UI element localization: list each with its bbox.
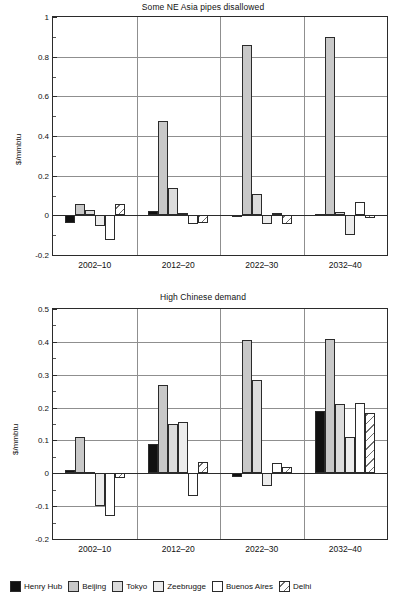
bar-henry-hub-2022-30 — [232, 473, 242, 476]
y-axis-tick-label: 0.4 — [38, 337, 49, 346]
plot-area-bottom: -0.2-0.100.10.20.30.40.52002–102012–2020… — [52, 308, 388, 540]
y-axis-minor-tick — [53, 358, 56, 359]
chart-title-top: Some NE Asia pipes disallowed — [0, 2, 406, 12]
y-axis-tick-label: 0.4 — [38, 132, 49, 141]
x-axis-tick-label: 2012–20 — [162, 544, 195, 554]
bar-henry-hub-2012-20 — [148, 211, 158, 215]
chart-some-ne-asia-pipes-disallowed: Some NE Asia pipes disallowed $/mmbtu -0… — [0, 0, 406, 290]
y-axis-tick-label: 0.5 — [38, 305, 49, 314]
bar-tokyo-2022-30 — [252, 380, 262, 474]
bar-tokyo-2032-40 — [335, 212, 345, 215]
group-separator — [220, 17, 221, 255]
bar-buenos-aires-2022-30 — [272, 463, 282, 473]
y-axis-label-bottom: $/mmbtu — [11, 424, 20, 455]
bar-beijing-2002-10 — [75, 204, 85, 215]
x-axis-tick-label: 2022–30 — [245, 544, 278, 554]
bar-buenos-aires-2032-40 — [355, 202, 365, 215]
bar-tokyo-2012-20 — [168, 188, 178, 216]
y-axis-minor-tick — [53, 391, 56, 392]
bar-beijing-2032-40 — [325, 37, 335, 216]
y-axis-minor-tick — [53, 116, 56, 117]
y-axis-label-top: $/mmbtu — [14, 134, 23, 165]
bar-tokyo-2012-20 — [168, 424, 178, 473]
bar-henry-hub-2032-40 — [315, 214, 325, 216]
y-axis-tick-label: 0 — [45, 469, 49, 478]
bar-delhi-2002-10 — [115, 204, 125, 215]
bar-tokyo-2032-40 — [335, 404, 345, 473]
x-axis-tick-label: 2022–30 — [245, 260, 278, 270]
bar-beijing-2032-40 — [325, 339, 335, 474]
legend-label: Tokyo — [126, 582, 147, 591]
y-axis-tick-label: 0.2 — [38, 171, 49, 180]
figure-root: Some NE Asia pipes disallowed $/mmbtu -0… — [0, 0, 406, 613]
x-axis-tick-label: 2032–40 — [329, 544, 362, 554]
y-axis-minor-tick — [53, 457, 56, 458]
bar-buenos-aires-2012-20 — [188, 473, 198, 496]
legend-item-henry-hub: Henry Hub — [10, 581, 62, 592]
x-axis-tick-label: 2002–10 — [78, 544, 111, 554]
bar-henry-hub-2002-10 — [65, 470, 75, 473]
legend-label: Beijing — [82, 582, 106, 591]
y-axis-tick-label: -0.1 — [35, 502, 49, 511]
group-separator — [304, 309, 305, 539]
y-axis-tick-mark — [53, 375, 57, 376]
bar-zeebrugge-2022-30 — [262, 215, 272, 224]
bar-beijing-2022-30 — [242, 45, 252, 216]
legend-swatch-icon — [68, 581, 79, 592]
y-axis-tick-mark — [53, 342, 57, 343]
legend-label: Buenos Aires — [226, 582, 273, 591]
y-axis-tick-mark — [53, 309, 57, 310]
y-axis-tick-label: -0.2 — [35, 535, 49, 544]
plot-area-top: -0.200.20.40.60.812002–102012–202022–302… — [52, 16, 388, 256]
y-axis-tick-label: -0.2 — [35, 251, 49, 260]
bar-delhi-2002-10 — [115, 473, 125, 478]
bar-zeebrugge-2012-20 — [178, 213, 188, 215]
y-axis-minor-tick — [53, 235, 56, 236]
y-axis-tick-mark — [53, 17, 57, 18]
legend-label: Zeebrugge — [167, 582, 206, 591]
group-separator — [220, 309, 221, 539]
bar-beijing-2012-20 — [158, 121, 168, 215]
y-axis-tick-label: 0.6 — [38, 92, 49, 101]
legend-label: Henry Hub — [24, 582, 62, 591]
y-axis-minor-tick — [53, 523, 56, 524]
bar-henry-hub-2022-30 — [232, 215, 242, 217]
bar-zeebrugge-2012-20 — [178, 422, 188, 473]
group-separator — [137, 309, 138, 539]
y-axis-tick-mark — [53, 539, 57, 540]
y-axis-minor-tick — [53, 424, 56, 425]
legend-swatch-icon — [279, 581, 290, 592]
bar-tokyo-2002-10 — [85, 472, 95, 474]
legend-item-buenos-aires: Buenos Aires — [212, 581, 273, 592]
y-axis-minor-tick — [53, 77, 56, 78]
legend-item-delhi: Delhi — [279, 581, 311, 592]
bar-zeebrugge-2002-10 — [95, 473, 105, 506]
y-axis-tick-mark — [53, 506, 57, 507]
y-axis-minor-tick — [53, 37, 56, 38]
y-axis-minor-tick — [53, 156, 56, 157]
legend-label: Delhi — [293, 582, 311, 591]
group-separator — [137, 17, 138, 255]
bar-delhi-2012-20 — [198, 462, 208, 474]
y-axis-tick-mark — [53, 96, 57, 97]
x-axis-tick-label: 2002–10 — [78, 260, 111, 270]
bar-delhi-2032-40 — [365, 413, 375, 474]
bar-henry-hub-2012-20 — [148, 444, 158, 474]
y-axis-minor-tick — [53, 196, 56, 197]
y-axis-tick-label: 0.8 — [38, 52, 49, 61]
legend-swatch-icon — [112, 581, 123, 592]
bar-zeebrugge-2002-10 — [95, 215, 105, 226]
bar-buenos-aires-2032-40 — [355, 403, 365, 474]
y-axis-tick-label: 0.3 — [38, 370, 49, 379]
bar-henry-hub-2032-40 — [315, 411, 325, 473]
bar-delhi-2022-30 — [282, 467, 292, 474]
bar-beijing-2012-20 — [158, 385, 168, 474]
chart-high-chinese-demand: High Chinese demand $/mmbtu -0.2-0.100.1… — [0, 290, 406, 572]
y-axis-tick-mark — [53, 176, 57, 177]
x-axis-tick-label: 2032–40 — [329, 260, 362, 270]
legend-item-zeebrugge: Zeebrugge — [153, 581, 206, 592]
y-axis-tick-mark — [53, 408, 57, 409]
legend-item-beijing: Beijing — [68, 581, 106, 592]
y-axis-minor-tick — [53, 490, 56, 491]
y-axis-tick-mark — [53, 440, 57, 441]
